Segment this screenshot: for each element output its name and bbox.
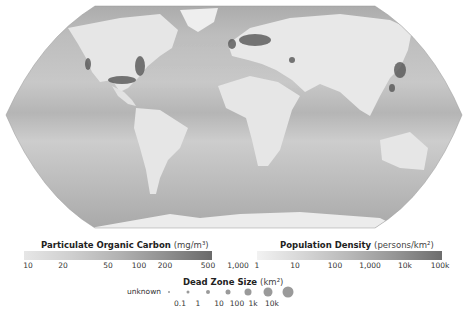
tick-label: 100 [328, 261, 342, 270]
tick-label: 50 [103, 261, 113, 270]
deadzone-dot [264, 288, 273, 297]
deadzone-tick-labels: 0.11101001k10k [0, 299, 470, 309]
tick-label: 100 [230, 299, 244, 308]
tick-label: 100 [132, 261, 146, 270]
tick-label: 1 [196, 299, 201, 308]
tick-label: 200 [158, 261, 172, 270]
poc-tick-labels: 1020501002005001,000 [18, 261, 238, 271]
population-color-ramp [257, 251, 442, 260]
tick-label: 10 [23, 261, 33, 270]
tick-label: 1k [248, 299, 257, 308]
world-map [0, 0, 470, 235]
tick-label: 500 [201, 261, 215, 270]
population-legend-title: Population Density (persons/km²) [280, 240, 434, 250]
tick-label: 1,000 [359, 261, 380, 270]
deadzone-unknown-label: unknown [127, 287, 161, 296]
poc-legend-title: Particulate Organic Carbon (mg/m³) [41, 240, 209, 250]
tick-label: 0.1 [174, 299, 186, 308]
deadzone-dot [245, 289, 252, 296]
tick-label: 100k [431, 261, 450, 270]
population-tick-labels: 1101001,00010k100k [235, 261, 465, 271]
deadzone-dot [187, 291, 190, 294]
deadzone-legend-title: Dead Zone Size (km²) [183, 277, 283, 287]
tick-label: 10 [214, 299, 224, 308]
poc-color-ramp [24, 251, 212, 260]
tick-label: 10 [290, 261, 300, 270]
deadzone-dot [283, 287, 294, 298]
tick-label: 1 [255, 261, 260, 270]
deadzone-dot [206, 290, 210, 294]
deadzone-dot [168, 291, 170, 293]
tick-label: 20 [58, 261, 68, 270]
tick-label: 10k [398, 261, 412, 270]
deadzone-dot [226, 290, 231, 295]
tick-label: 10k [265, 299, 279, 308]
